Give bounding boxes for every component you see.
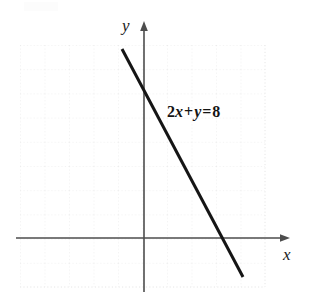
equation-coefficient: 2 <box>167 103 175 120</box>
equation-annotation: 2x+y=8 <box>167 104 220 120</box>
equation-plus-operator: + <box>183 103 194 120</box>
equation-constant: 8 <box>212 103 220 120</box>
coordinate-plane-svg <box>0 0 313 301</box>
x-axis-label: x <box>283 246 291 263</box>
x-axis-arrowhead <box>280 234 290 242</box>
equation-variable-x: x <box>175 103 183 120</box>
equation-equals-operator: = <box>201 103 212 120</box>
y-axis-label: y <box>122 17 130 34</box>
y-axis-arrowhead <box>140 21 148 31</box>
graph-figure: y x 2x+y=8 <box>0 0 313 301</box>
